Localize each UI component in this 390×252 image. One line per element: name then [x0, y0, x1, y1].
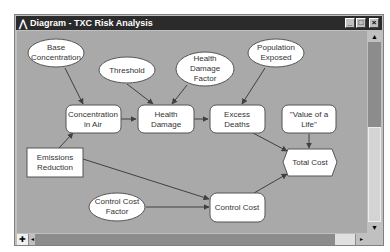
minimize-button[interactable]: _ — [345, 18, 355, 28]
arrow-hdf-to-health-damage — [172, 85, 187, 104]
node-label: Damage — [190, 64, 221, 73]
tool-arrow-icon[interactable]: ✚ — [17, 234, 28, 245]
node-base-concentration[interactable]: Base Concentration — [28, 39, 84, 67]
node-label: Concentration — [68, 110, 118, 119]
node-total-cost[interactable]: Total Cost — [283, 149, 337, 176]
node-concentration-in-air[interactable]: Concentration in Air — [66, 105, 121, 133]
node-population-exposed[interactable]: Population Exposed — [248, 39, 304, 67]
node-label: Reduction — [37, 163, 73, 172]
node-label: Life" — [301, 120, 317, 129]
arrow-emissions-to-control-cost — [83, 159, 209, 199]
node-value-of-a-life[interactable]: "Value of a Life" — [282, 105, 336, 133]
horizontal-scroll-thumb[interactable] — [335, 234, 355, 245]
arrow-excess-deaths-to-total-cost — [253, 133, 287, 151]
arrow-base-to-concentration — [65, 68, 83, 104]
node-label: Emissions — [37, 153, 73, 162]
node-label: Health — [193, 54, 216, 63]
node-label: Factor — [106, 207, 129, 216]
node-emissions-reduction[interactable]: Emissions Reduction — [27, 148, 83, 177]
diagram-window: ⋀ Diagram - TXC Risk Analysis _ □ × — [14, 14, 384, 246]
node-label: Excess — [224, 110, 250, 119]
scroll-up-button[interactable]: ▲ — [368, 31, 381, 42]
node-health-damage-factor[interactable]: Health Damage Factor — [176, 52, 234, 86]
node-label: "Value of a — [290, 110, 329, 119]
vertical-scrollbar[interactable]: ▲ ▼ — [368, 31, 381, 233]
window-title: Diagram - TXC Risk Analysis — [30, 16, 153, 30]
node-label: in Air — [84, 120, 102, 129]
node-label: Total Cost — [292, 158, 328, 167]
arrow-population-to-excess-deaths — [242, 68, 265, 104]
node-control-cost-factor[interactable]: Control Cost Factor — [89, 193, 145, 221]
minimize-icon: _ — [348, 18, 352, 27]
scroll-down-button[interactable]: ▼ — [368, 222, 381, 233]
node-label: Concentration — [31, 53, 81, 62]
node-label: Factor — [194, 74, 217, 83]
vertical-scroll-thumb[interactable] — [368, 127, 381, 222]
resize-grip[interactable] — [368, 234, 381, 245]
close-icon: × — [372, 18, 377, 27]
scroll-right-button[interactable]: ▸ — [356, 234, 367, 245]
analytica-icon: ⋀ — [19, 17, 27, 31]
node-label: Health — [154, 110, 177, 119]
node-label: Control Cost — [215, 203, 260, 212]
arrow-control-cost-to-total-cost — [254, 174, 287, 193]
node-label: Exposed — [260, 53, 291, 62]
node-label: Base — [47, 43, 66, 52]
maximize-button[interactable]: □ — [356, 18, 366, 28]
node-label: Damage — [151, 120, 182, 129]
node-excess-deaths[interactable]: Excess Deaths — [210, 105, 265, 133]
node-control-cost[interactable]: Control Cost — [210, 193, 265, 222]
maximize-icon: □ — [359, 18, 364, 27]
close-button[interactable]: × — [369, 18, 379, 28]
scroll-left-button[interactable]: ◂ — [29, 234, 35, 245]
node-threshold[interactable]: Threshold — [99, 57, 155, 83]
node-health-damage[interactable]: Health Damage — [138, 105, 194, 133]
node-label: Threshold — [109, 66, 145, 75]
horizontal-scrollbar[interactable]: ✚ ◂ ▸ — [17, 234, 367, 245]
diagram-canvas[interactable]: Base Concentration Threshold Health Dama… — [17, 31, 367, 233]
node-label: Deaths — [224, 120, 249, 129]
title-bar[interactable]: ⋀ Diagram - TXC Risk Analysis _ □ × — [16, 16, 382, 30]
node-label: Control Cost — [95, 197, 140, 206]
node-label: Population — [257, 43, 295, 52]
arrow-emissions-to-concentration — [59, 133, 73, 148]
arrows — [59, 68, 309, 207]
arrow-threshold-to-health-damage — [127, 84, 153, 104]
